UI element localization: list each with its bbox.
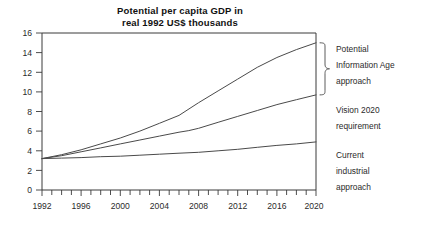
y-tick-group: [36, 33, 42, 190]
annotation-vision-line1: Vision 2020: [336, 105, 380, 115]
x-tick-label-2004: 2004: [150, 201, 169, 211]
y-tick-label-4: 4: [27, 146, 32, 156]
x-tick-label-2016: 2016: [267, 201, 286, 211]
y-tick-label-2: 2: [27, 166, 32, 176]
chart-title-line2: real 1992 US$ thousands: [122, 17, 238, 28]
x-tick-label-2008: 2008: [189, 201, 208, 211]
y-axis: 16 14 12 10 8 6 4 2 0: [22, 28, 42, 195]
curly-brace-icon: [320, 43, 330, 95]
annotation-vision-line2: requirement: [336, 121, 381, 131]
annotation-potential-line2: Information Age: [336, 60, 395, 70]
y-tick-label-0: 0: [27, 185, 32, 195]
series-line-current-industrial: [42, 142, 316, 159]
annotation-current-line2: industrial: [336, 166, 370, 176]
y-tick-label-8: 8: [27, 107, 32, 117]
annotation-potential-information-age: Potential Information Age approach: [336, 44, 395, 86]
x-tick-label-1992: 1992: [32, 201, 51, 211]
y-tick-label-16: 16: [22, 28, 32, 38]
annotation-current-line1: Current: [336, 150, 365, 160]
y-tick-label-12: 12: [22, 68, 32, 78]
x-tick-label-2000: 2000: [111, 201, 130, 211]
y-tick-label-14: 14: [22, 48, 32, 58]
annotation-potential-line1: Potential: [336, 44, 369, 54]
annotation-vision-2020: Vision 2020 requirement: [336, 105, 381, 131]
annotation-current-industrial: Current industrial approach: [336, 150, 371, 192]
chart-container: Potential per capita GDP in real 1992 US…: [0, 0, 438, 229]
plot-frame: [42, 33, 316, 190]
x-axis-ticks: [42, 190, 316, 196]
series-group: [42, 43, 316, 159]
annotation-current-line3: approach: [336, 182, 371, 192]
x-tick-label-2012: 2012: [228, 201, 247, 211]
chart-title-line1: Potential per capita GDP in: [117, 5, 243, 16]
x-tick-label-2020: 2020: [304, 201, 323, 211]
x-axis-labels: 1992 1996 2000 2004 2008 2012 2016 2020: [32, 201, 323, 211]
series-line-potential-information-age: [42, 43, 316, 159]
y-tick-label-10: 10: [22, 87, 32, 97]
annotation-potential-line3: approach: [336, 76, 371, 86]
x-tick-label-1996: 1996: [72, 201, 91, 211]
line-chart: Potential per capita GDP in real 1992 US…: [0, 0, 438, 229]
chart-title: Potential per capita GDP in real 1992 US…: [117, 5, 243, 28]
y-tick-label-6: 6: [27, 126, 32, 136]
annotation-bracket-potential-information-age: [320, 43, 330, 95]
